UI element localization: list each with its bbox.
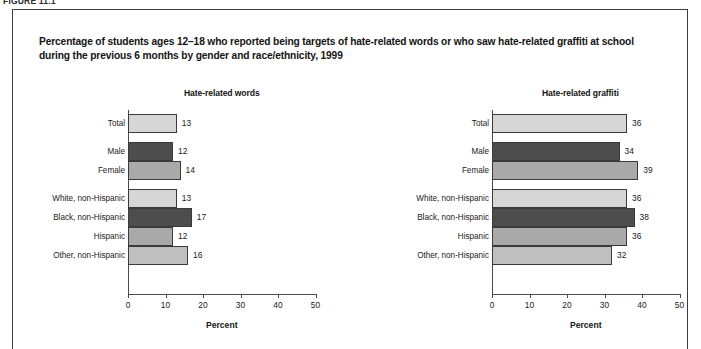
x-axis-title: Percent (206, 320, 238, 330)
axis-tick (530, 294, 531, 298)
category-label: Total (396, 118, 489, 128)
axis-tick (278, 294, 279, 298)
bar (128, 227, 173, 246)
bar-value-label: 34 (625, 146, 634, 156)
category-label: Black, non-Hispanic (32, 212, 125, 222)
axis-tick (316, 294, 317, 298)
axis-tick-label: 10 (525, 300, 534, 310)
category-label-row: Hispanic (393, 231, 489, 243)
category-label-row: White, non-Hispanic (393, 193, 489, 205)
category-label-row: Male (393, 146, 489, 158)
axis-tick (241, 294, 242, 298)
bar (128, 189, 177, 208)
axis-tick-label: 20 (198, 300, 207, 310)
category-label: Female (32, 165, 125, 175)
category-label-row: Other, non-Hispanic (393, 250, 489, 262)
bar-value-label: 38 (640, 212, 649, 222)
bar-value-label: 39 (643, 165, 652, 175)
bar (492, 208, 635, 227)
bar (492, 189, 627, 208)
category-label: Male (396, 146, 489, 156)
bar (128, 208, 192, 227)
chart-title-hate-related-graffiti: Hate-related graffiti (542, 88, 619, 98)
axis-tick (203, 294, 204, 298)
bar-value-label: 14 (186, 165, 195, 175)
bar-value-label: 36 (632, 118, 641, 128)
figure-title: Percentage of students ages 12–18 who re… (39, 34, 647, 62)
category-label-row: Black, non-Hispanic (393, 212, 489, 224)
bar (128, 114, 177, 133)
bar (128, 246, 188, 265)
bar-value-label: 12 (178, 146, 187, 156)
bar-value-label: 32 (617, 250, 626, 260)
axis-tick-label: 50 (675, 300, 684, 310)
axis-tick-label: 0 (126, 300, 131, 310)
figure-title-line-2: during the previous 6 months by gender a… (39, 48, 647, 62)
axis-tick (567, 294, 568, 298)
bar-value-label: 36 (632, 231, 641, 241)
axis-tick (128, 294, 129, 298)
axis-tick (605, 294, 606, 298)
category-label-row: Black, non-Hispanic (29, 212, 125, 224)
category-label: Other, non-Hispanic (32, 250, 125, 260)
category-label-row: Other, non-Hispanic (29, 250, 125, 262)
axis-tick (680, 294, 681, 298)
axis-tick-label: 30 (236, 300, 245, 310)
bar (492, 142, 620, 161)
category-label-row: Female (393, 165, 489, 177)
axis-tick (492, 294, 493, 298)
category-label: White, non-Hispanic (32, 193, 125, 203)
chart-title-hate-related-words: Hate-related words (184, 88, 260, 98)
category-label: Other, non-Hispanic (396, 250, 489, 260)
category-label: Female (396, 165, 489, 175)
category-label-row: Total (29, 118, 125, 130)
category-label-row: Hispanic (29, 231, 125, 243)
bar (128, 142, 173, 161)
bar-value-label: 13 (182, 118, 191, 128)
figure-title-line-1: Percentage of students ages 12–18 who re… (39, 34, 647, 48)
category-label-row: Total (393, 118, 489, 130)
bar-value-label: 12 (178, 231, 187, 241)
bar (492, 161, 638, 180)
category-label-row: White, non-Hispanic (29, 193, 125, 205)
figure-box: Percentage of students ages 12–18 who re… (12, 9, 688, 349)
category-label-row: Female (29, 165, 125, 177)
axis-tick-label: 10 (161, 300, 170, 310)
axis-tick-label: 0 (490, 300, 495, 310)
axis-tick-label: 20 (562, 300, 571, 310)
axis-tick-label: 50 (311, 300, 320, 310)
axis-tick (166, 294, 167, 298)
value-axis-line (128, 294, 316, 295)
category-label: Total (32, 118, 125, 128)
figure-number: FIGURE 11.1 (3, 0, 56, 6)
bar (492, 246, 612, 265)
bar (492, 227, 627, 246)
bar-value-label: 13 (182, 193, 191, 203)
category-label: Black, non-Hispanic (396, 212, 489, 222)
bar (492, 114, 627, 133)
axis-tick (642, 294, 643, 298)
axis-tick-label: 40 (273, 300, 282, 310)
category-label: White, non-Hispanic (396, 193, 489, 203)
category-label: Hispanic (32, 231, 125, 241)
bar-value-label: 17 (197, 212, 206, 222)
category-label: Hispanic (396, 231, 489, 241)
bar (128, 161, 181, 180)
category-label-row: Male (29, 146, 125, 158)
axis-tick-label: 40 (637, 300, 646, 310)
category-label: Male (32, 146, 125, 156)
bar-value-label: 36 (632, 193, 641, 203)
value-axis-line (492, 294, 680, 295)
x-axis-title: Percent (570, 320, 602, 330)
bar-value-label: 16 (193, 250, 202, 260)
axis-tick-label: 30 (600, 300, 609, 310)
